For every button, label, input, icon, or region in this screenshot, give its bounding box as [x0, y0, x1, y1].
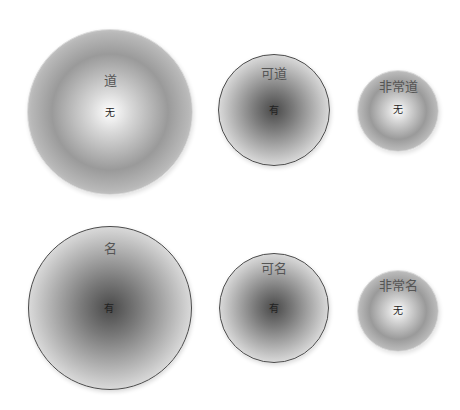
center-label-dao: 无	[105, 108, 115, 118]
center-label-feichangdao: 无	[393, 105, 403, 115]
center-label-feichangming: 无	[393, 306, 403, 316]
label-ming: 名	[104, 242, 117, 255]
label-dao: 道	[104, 74, 117, 87]
center-label-keming: 有	[269, 304, 279, 314]
center-label-kedao: 有	[269, 106, 279, 116]
center-label-ming: 有	[104, 304, 114, 314]
label-keming: 可名	[261, 262, 287, 275]
label-feichangdao: 非常道	[379, 80, 418, 93]
label-kedao: 可道	[261, 67, 287, 80]
label-feichangming: 非常名	[379, 279, 418, 292]
